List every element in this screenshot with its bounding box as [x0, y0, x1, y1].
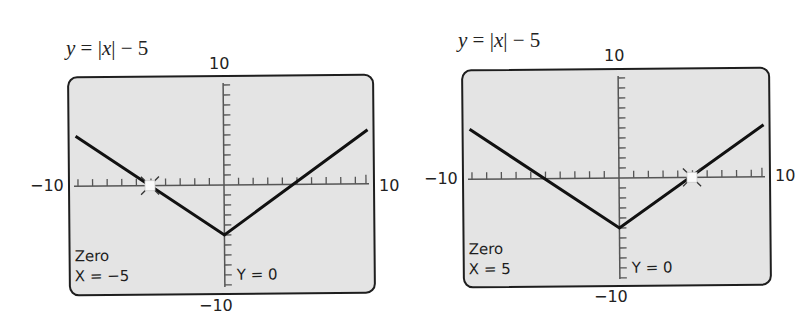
- xmax-label: 10: [775, 166, 795, 185]
- eq-y: y: [458, 28, 467, 52]
- graph-canvas: [463, 69, 770, 287]
- readout-x: X = 5: [469, 260, 511, 279]
- x-axis: [468, 177, 765, 180]
- y-axis: [223, 83, 225, 287]
- readout-mode: Zero: [469, 240, 504, 259]
- eq-op: = |: [467, 28, 494, 52]
- readout-x: X = −5: [75, 267, 130, 286]
- ymax-label: 10: [604, 46, 624, 65]
- graph-panel-left: y = |x| − 5 10 −10 10 −10: [0, 0, 404, 327]
- equation-title: y = |x| − 5: [66, 36, 148, 61]
- y-axis: [618, 76, 620, 279]
- readout-y: Y = 0: [237, 266, 278, 285]
- ymin-label: −10: [199, 296, 233, 315]
- graph-panel-right: y = |x| − 5 10 −10 10 −10: [404, 0, 808, 327]
- eq-suffix: | − 5: [111, 36, 148, 60]
- eq-x: x: [494, 28, 503, 52]
- readout-y: Y = 0: [632, 259, 673, 278]
- equation-title: y = |x| − 5: [458, 28, 540, 53]
- calculator-screen: Zero X = −5 Y = 0: [67, 74, 376, 297]
- eq-suffix: | − 5: [503, 28, 540, 52]
- graph-canvas: [69, 76, 374, 295]
- eq-x: x: [102, 36, 111, 60]
- xmin-label: −10: [30, 176, 64, 195]
- xmin-label: −10: [424, 169, 458, 188]
- readout-mode: Zero: [75, 247, 110, 266]
- eq-op: = |: [75, 36, 102, 60]
- calculator-screen: Zero X = 5 Y = 0: [461, 67, 772, 289]
- ymin-label: −10: [594, 287, 628, 306]
- eq-y: y: [66, 36, 75, 60]
- graph-line: [76, 130, 369, 237]
- xmax-label: 10: [379, 176, 399, 195]
- ymax-label: 10: [209, 54, 229, 73]
- x-axis: [74, 184, 369, 187]
